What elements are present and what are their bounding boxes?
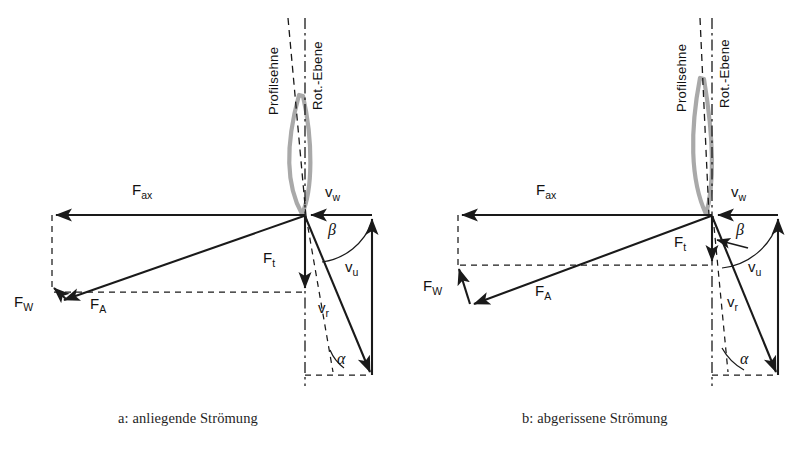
caption-panel-a: a: anliegende Strömung [118,410,258,427]
label-f-w-a: FW [14,293,33,313]
label-angle-beta-a: β [327,221,336,239]
label-f-t-b: Ft [674,233,686,253]
label-v-w-a: vw [325,183,341,203]
caption-panel-b: b: abgerissene Strömung [522,410,668,427]
label-angle-beta-b: β [735,221,744,239]
panel-a: Profilsehne Rot.-Ebene Fax Ft FW FA vw v… [14,18,372,386]
label-f-t-a: Ft [263,249,275,269]
label-f-a-b: FA [535,282,551,302]
vector-f-a-b [474,216,711,304]
vector-f-w-a [54,288,66,299]
label-rot-ebene-b: Rot.-Ebene [717,39,732,108]
label-v-u-a: vu [345,258,359,278]
label-profilsehne-a: Profilsehne [266,47,281,115]
vector-v-r-b [712,216,776,372]
vector-f-w-b [459,269,470,304]
label-f-w-b: FW [423,277,442,297]
label-v-w-b: vw [731,183,747,203]
vector-v-r-a [305,216,370,372]
airfoil-profile-b [693,78,712,214]
label-f-ax-b: Fax [536,181,557,201]
label-angle-alpha-b: α [740,350,749,367]
guide-chord-extension-a [306,216,333,372]
label-profilsehne-b: Profilsehne [674,44,689,112]
label-v-u-b: vu [748,258,762,278]
label-v-r-b: vr [727,293,739,313]
vector-diagram-svg: Profilsehne Rot.-Ebene Fax Ft FW FA vw v… [0,0,809,453]
label-rot-ebene-a: Rot.-Ebene [310,41,325,110]
figure-root: Profilsehne Rot.-Ebene Fax Ft FW FA vw v… [0,0,809,453]
label-f-a-a: FA [90,295,106,315]
panel-b: Profilsehne Rot.-Ebene Fax Ft FW FA vw v… [423,18,778,386]
label-angle-alpha-a: α [337,350,346,367]
label-f-ax-a: Fax [132,181,153,201]
